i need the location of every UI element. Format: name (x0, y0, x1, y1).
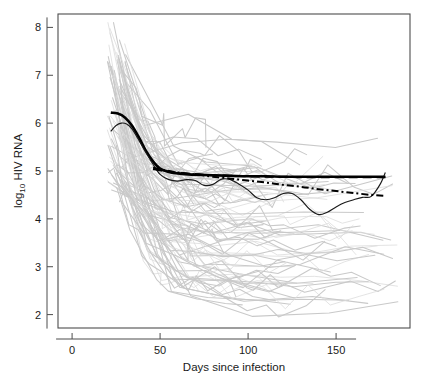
x-tick-label: 0 (69, 344, 75, 356)
y-axis-title-rest: HIV RNA (12, 134, 24, 184)
y-tick-label: 3 (35, 261, 41, 273)
y-tick-label: 4 (35, 213, 41, 225)
chart-canvas: 050100150 2345678 Days since infection l… (0, 0, 422, 385)
y-tick-label: 8 (35, 21, 41, 33)
x-axis-title: Days since infection (183, 361, 285, 373)
y-tick-label: 5 (35, 165, 41, 177)
hiv-rna-figure: 050100150 2345678 Days since infection l… (0, 0, 422, 385)
x-tick-label: 100 (239, 344, 257, 356)
y-tick-label: 6 (35, 117, 41, 129)
y-tick-label: 2 (35, 309, 41, 321)
y-tick-label: 7 (35, 69, 41, 81)
x-tick-label: 50 (154, 344, 166, 356)
y-axis-title-main: log (12, 193, 24, 208)
x-tick-label: 150 (327, 344, 345, 356)
